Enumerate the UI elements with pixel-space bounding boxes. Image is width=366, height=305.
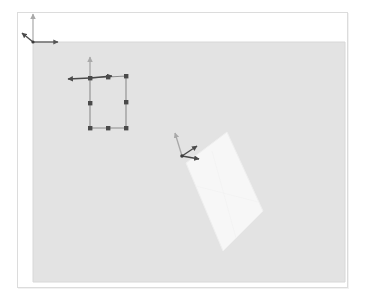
quad-gizmo-origin-dot[interactable] bbox=[180, 154, 184, 158]
world-gizmo-origin-dot[interactable] bbox=[31, 40, 34, 43]
handle-right-mid[interactable] bbox=[124, 100, 128, 104]
handle-top-mid[interactable] bbox=[106, 75, 110, 79]
handle-bottom-mid[interactable] bbox=[106, 126, 110, 130]
handle-top-left[interactable] bbox=[88, 76, 92, 80]
handle-bottom-right[interactable] bbox=[124, 126, 128, 130]
handle-bottom-left[interactable] bbox=[88, 126, 92, 130]
viewport-canvas[interactable] bbox=[0, 0, 366, 305]
world-origin-gizmo[interactable] bbox=[22, 14, 58, 44]
handle-left-mid[interactable] bbox=[88, 101, 92, 105]
handle-top-right[interactable] bbox=[124, 74, 128, 78]
world-gizmo-z-axis[interactable] bbox=[22, 33, 33, 42]
app-root: 3D Viewport ground-plane selected-rectan… bbox=[0, 0, 366, 305]
